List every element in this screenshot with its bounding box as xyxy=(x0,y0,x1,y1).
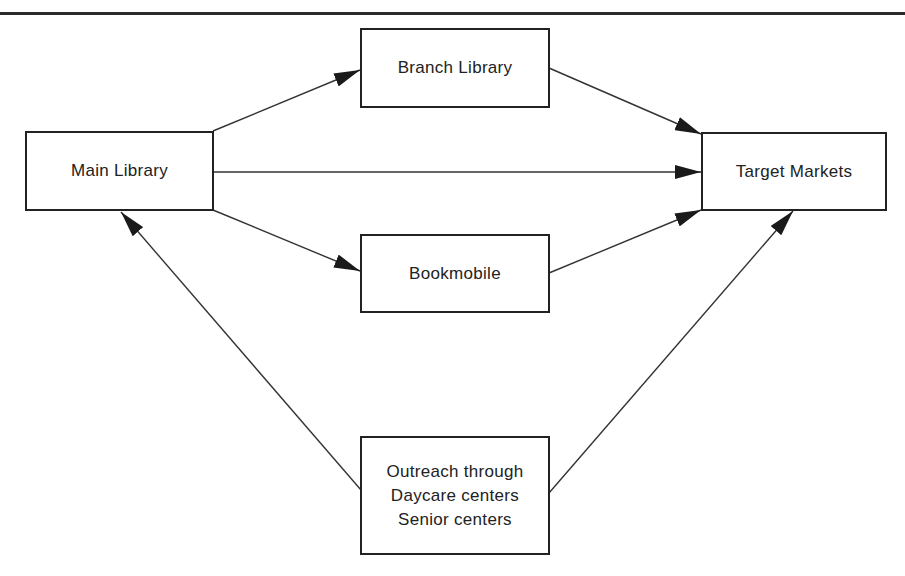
node-main-library: Main Library xyxy=(25,131,214,211)
edge-bookmobile-to-target xyxy=(549,210,701,273)
node-target-markets: Target Markets xyxy=(701,132,887,211)
edge-main-to-bookmobile xyxy=(213,210,360,271)
node-label-line-1: Outreach through xyxy=(386,460,523,484)
node-label-line-3: Senior centers xyxy=(398,508,512,532)
node-label: Branch Library xyxy=(398,56,513,80)
node-bookmobile: Bookmobile xyxy=(360,234,550,313)
node-label: Bookmobile xyxy=(409,262,501,286)
node-outreach: Outreach through Daycare centers Senior … xyxy=(360,436,550,555)
edge-outreach-to-target xyxy=(549,211,793,493)
node-branch-library: Branch Library xyxy=(360,28,550,108)
node-label: Main Library xyxy=(71,159,168,183)
node-label-line-2: Daycare centers xyxy=(391,484,519,508)
edge-main-to-branch xyxy=(213,70,360,131)
edge-outreach-to-main xyxy=(121,212,361,490)
edge-branch-to-target xyxy=(549,68,701,134)
node-label: Target Markets xyxy=(736,160,853,184)
